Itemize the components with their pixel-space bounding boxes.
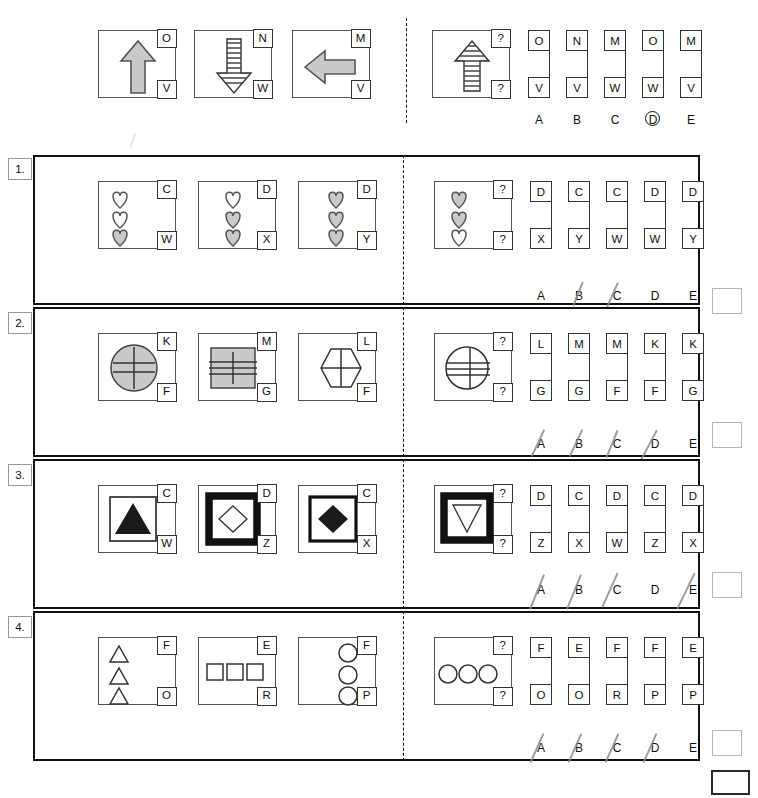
option-top-letter: E [682,637,704,658]
corner-tab-top: N [253,29,273,48]
corner-tab-bottom: W [157,535,177,554]
row3-option-a[interactable]: D Z [530,485,554,553]
row-number-2: 2. [8,312,32,334]
question-row-2: K F M G L F [33,307,700,457]
row-number-3: 3. [8,464,32,486]
option-top-letter: C [644,485,666,506]
option-bottom-letter: G [682,380,704,401]
row4-option-b[interactable]: E O [568,637,592,705]
option-top-letter: C [606,181,628,202]
corner-tab-bottom: V [157,80,177,99]
row1-answer-box[interactable] [712,288,742,314]
example-option-e[interactable]: M V [680,30,704,98]
example-stem-tile-1: O V [98,30,176,98]
row-number-1: 1. [8,158,32,180]
example-letter-b: B [566,113,588,127]
row4-option-a[interactable]: F O [530,637,554,705]
row3-option-e[interactable]: D X [682,485,706,553]
example-option-b[interactable]: N V [566,30,590,98]
corner-tab-top: F [357,636,377,655]
corner-tab-top: M [351,29,371,48]
row4-question-tile: ? ? [434,637,512,705]
row-number-4: 4. [8,616,32,638]
example-row: O V N W M V [0,0,758,140]
row3-answer-box[interactable] [712,572,742,598]
row4-option-c[interactable]: F R [606,637,630,705]
row3-option-b[interactable]: C X [568,485,592,553]
option-bottom-letter: W [644,228,666,249]
row2-option-d[interactable]: K F [644,333,668,401]
option-bottom-letter: X [530,228,552,249]
example-stem-tile-3: M V [292,30,370,98]
example-option-d[interactable]: O W [642,30,666,98]
corner-tab-bottom: F [157,383,177,402]
row3-option-d[interactable]: C Z [644,485,668,553]
question-tab-top: ? [493,636,513,655]
row1-option-a[interactable]: D X [530,181,554,249]
example-row-divider [406,18,407,123]
row4-letter-e: E [682,741,704,755]
row2-answer-box[interactable] [712,422,742,448]
example-option-a[interactable]: O V [528,30,552,98]
option-top-letter: N [566,30,588,51]
corner-tab-bottom: Z [257,535,277,554]
corner-tab-bottom: F [357,383,377,402]
row4-option-e[interactable]: E P [682,637,706,705]
option-top-letter: D [530,181,552,202]
option-bottom-letter: P [644,684,666,705]
row1-question-tile: ? ? [434,181,512,249]
row2-option-a[interactable]: L G [530,333,554,401]
option-top-letter: F [530,637,552,658]
option-bottom-letter: W [606,228,628,249]
row3-option-c[interactable]: D W [606,485,630,553]
row2-stem-tile-1: K F [98,333,176,401]
option-bottom-letter: Y [682,228,704,249]
example-letter-e: E [680,113,702,127]
row2-stem-tile-3: L F [298,333,376,401]
option-top-letter: D [606,485,628,506]
row1-option-d[interactable]: D W [644,181,668,249]
row1-option-c[interactable]: C W [606,181,630,249]
option-top-letter: M [568,333,590,354]
option-top-letter: M [606,333,628,354]
example-option-c[interactable]: M W [604,30,628,98]
corner-tab-bottom: W [157,231,177,250]
option-top-letter: F [606,637,628,658]
option-bottom-letter: F [644,380,666,401]
row4-option-d[interactable]: F P [644,637,668,705]
example-selected-answer-circle [645,111,660,126]
option-top-letter: D [682,181,704,202]
option-top-letter: D [644,181,666,202]
row4-stem-tile-3: F P [298,637,376,705]
row2-option-c[interactable]: M F [606,333,630,401]
option-bottom-letter: P [682,684,704,705]
corner-tab-bottom: P [357,687,377,706]
row-4-divider [403,611,404,761]
example-stem-tile-2: N W [194,30,272,98]
row3-stem-tile-1: C W [98,485,176,553]
corner-tab-bottom: Y [357,231,377,250]
corner-tab-top: F [157,636,177,655]
row1-option-b[interactable]: C Y [568,181,592,249]
corner-tab-bottom: W [253,80,273,99]
option-top-letter: M [680,30,702,51]
option-bottom-letter: Z [530,532,552,553]
option-top-letter: F [644,637,666,658]
row4-stem-tile-1: F O [98,637,176,705]
row2-option-b[interactable]: M G [568,333,592,401]
option-top-letter: D [530,485,552,506]
question-tab-bottom: ? [493,383,513,402]
corner-tab-bottom: G [257,383,277,402]
corner-tab-top: K [157,332,177,351]
row2-option-e[interactable]: K G [682,333,706,401]
row3-letter-a: A [530,583,552,597]
row1-option-e[interactable]: D Y [682,181,706,249]
option-bottom-letter: W [604,77,626,98]
corner-tab-top: C [157,484,177,503]
question-tab-top: ? [491,29,511,48]
final-total-box[interactable] [711,770,750,795]
question-tab-top: ? [493,332,513,351]
option-bottom-letter: W [606,532,628,553]
row4-answer-box[interactable] [712,730,742,756]
question-tab-top: ? [493,180,513,199]
